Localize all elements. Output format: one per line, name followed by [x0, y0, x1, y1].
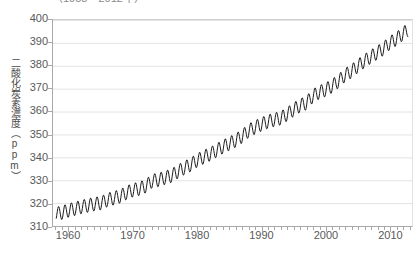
co2-series-line: [53, 20, 412, 226]
y-tick-label: 380: [6, 59, 48, 70]
y-tick-label: 320: [6, 198, 48, 209]
y-tick-label: 330: [6, 175, 48, 186]
y-tick-label: 400: [6, 13, 48, 24]
chart-title: （1958～2012年）: [52, 0, 252, 5]
co2-line-path: [56, 26, 408, 220]
y-tick-label: 370: [6, 82, 48, 93]
y-axis-tick-labels: 400390380370360350340330320310: [0, 19, 48, 227]
y-tick-label: 390: [6, 36, 48, 47]
y-tick-label: 350: [6, 129, 48, 140]
plot-area: [52, 19, 413, 227]
co2-concentration-chart: （1958～2012年） 二酸化炭素濃度（ppm） 40039038037036…: [0, 0, 416, 259]
x-axis-tick-marks: [52, 227, 413, 233]
y-tick-label: 360: [6, 105, 48, 116]
chart-title-clipped: （1958～2012年）: [52, 0, 252, 5]
y-tick-label: 310: [6, 221, 48, 232]
y-tick-label: 340: [6, 152, 48, 163]
